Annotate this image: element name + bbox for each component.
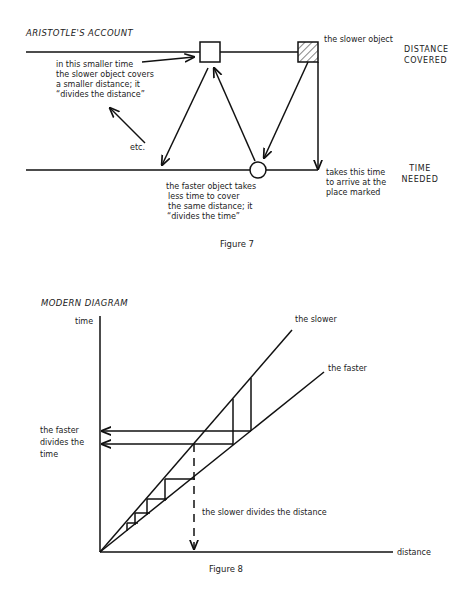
figure7-title: ARISTOTLE'S ACCOUNT xyxy=(25,28,133,38)
figure8-title: MODERN DIAGRAM xyxy=(41,298,128,308)
arrow-note-to-square xyxy=(142,57,194,62)
figure8-caption: Figure 8 xyxy=(209,564,243,574)
faster-label: the faster xyxy=(328,364,368,373)
etc-label: etc. xyxy=(130,143,145,152)
left-note-line2: the slower object covers xyxy=(56,70,154,79)
staircase xyxy=(127,479,195,531)
arrow-hatched-to-circle xyxy=(264,62,308,158)
empty-square-marker xyxy=(200,42,220,62)
right-note-line3: place marked xyxy=(326,188,380,197)
faster-divides-line3: time xyxy=(40,450,58,459)
figure7-caption: Figure 7 xyxy=(220,239,254,249)
bottom-note-line1: the faster object takes xyxy=(166,182,256,191)
bottom-note-line2: less time to cover xyxy=(168,192,240,201)
bottom-note-line3: the same distance; it xyxy=(168,202,253,211)
right-note-line1: takes this time xyxy=(326,168,385,177)
time-needed-line1: TIME xyxy=(408,164,431,173)
faster-divides-line1: the faster xyxy=(40,426,80,435)
slower-label: the slower xyxy=(295,315,337,324)
slower-object-label: the slower object xyxy=(324,35,393,44)
figure-7: ARISTOTLE'S ACCOUNT the slower object DI… xyxy=(25,28,449,249)
y-axis-label: time xyxy=(75,317,93,326)
figure-8: MODERN DIAGRAM time distance the slower … xyxy=(40,298,431,574)
x-axis-label: distance xyxy=(397,548,431,557)
circle-marker xyxy=(250,162,266,178)
slower-divides-label: the slower divides the distance xyxy=(202,508,327,517)
left-note-line4: “divides the distance” xyxy=(56,90,145,99)
time-needed-line2: NEEDED xyxy=(401,175,438,184)
slower-line xyxy=(100,330,292,552)
arrow-etc xyxy=(110,108,145,143)
arrow-circle-to-square xyxy=(214,68,255,161)
arrow-square-to-timeline xyxy=(162,68,208,165)
left-note-line1: in this smaller time xyxy=(56,60,133,69)
hatched-square-slower-object xyxy=(298,42,318,62)
left-note-line3: a smaller distance; it xyxy=(56,80,140,89)
bottom-note-line4: “divides the time” xyxy=(167,212,240,221)
diagram-canvas: ARISTOTLE'S ACCOUNT the slower object DI… xyxy=(0,0,475,592)
distance-covered-line2: COVERED xyxy=(404,56,447,65)
distance-covered-line1: DISTANCE xyxy=(404,45,449,54)
right-note-line2: to arrive at the xyxy=(326,178,386,187)
faster-line xyxy=(100,372,324,552)
faster-divides-line2: divides the xyxy=(40,438,84,447)
